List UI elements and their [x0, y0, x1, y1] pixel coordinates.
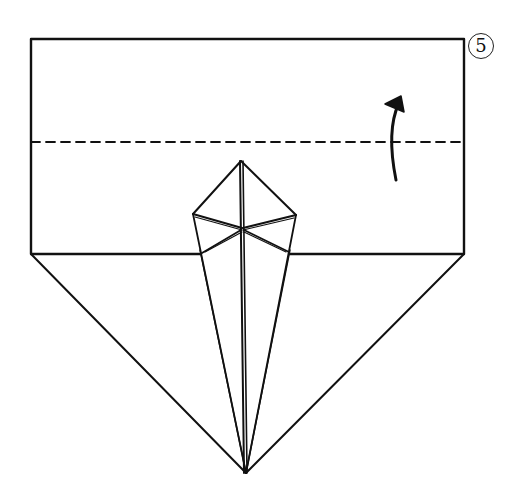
step-number-badge: 5: [468, 33, 494, 59]
center-kite-piece: [193, 161, 296, 473]
origami-diagram: [0, 0, 509, 492]
